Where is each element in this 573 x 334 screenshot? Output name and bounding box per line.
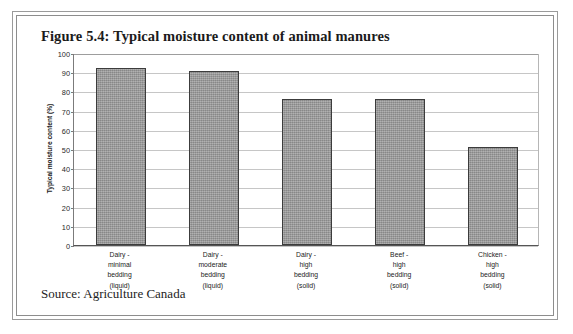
x-axis-label-line: bedding	[168, 270, 257, 280]
bars-layer	[74, 54, 538, 245]
bar-chart: Typical moisture content (%) 10090807060…	[25, 49, 549, 304]
plot-area: 1009080706050403020100	[73, 54, 539, 246]
bar-slot	[468, 54, 518, 245]
bar[interactable]	[468, 147, 518, 245]
bar-slot	[282, 54, 332, 245]
y-tick-label: 50	[62, 146, 70, 155]
x-axis-label-line: Beef -	[355, 250, 444, 260]
gridline	[74, 246, 538, 247]
y-tick-label: 40	[62, 165, 70, 174]
x-axis-label-line: moderate	[168, 260, 257, 270]
x-axis-label-line: (solid)	[261, 281, 350, 291]
y-tick-label: 70	[62, 107, 70, 116]
x-axis-label-line: (solid)	[355, 281, 444, 291]
x-axis-label: Chicken -highbedding(solid)	[448, 250, 537, 291]
x-axis-label-line: bedding	[448, 270, 537, 280]
y-tick-label: 10	[62, 222, 70, 231]
bar[interactable]	[282, 99, 332, 245]
figure-border-inner: Figure 5.4: Typical moisture content of …	[16, 15, 554, 316]
y-tick-label: 20	[62, 203, 70, 212]
figure-border-frame: Figure 5.4: Typical moisture content of …	[12, 11, 558, 320]
x-axis-label-line: Dairy -	[75, 250, 164, 260]
x-axis-label-line: Dairy -	[261, 250, 350, 260]
x-axis-label: Dairy -moderatebedding(liquid)	[168, 250, 257, 291]
bar[interactable]	[375, 99, 425, 245]
bar-slot	[96, 54, 146, 245]
bar-slot	[375, 54, 425, 245]
x-axis-label-line: bedding	[261, 270, 350, 280]
figure-source: Source: Agriculture Canada	[41, 286, 185, 302]
x-axis-label: Dairy -minimalbedding(liquid)	[75, 250, 164, 291]
x-axis-label: Dairy -highbedding(solid)	[261, 250, 350, 291]
y-tick-label: 100	[58, 50, 70, 59]
y-tick-label: 0	[66, 242, 70, 251]
x-axis-label-line: Dairy -	[168, 250, 257, 260]
x-axis-label-line: high	[261, 260, 350, 270]
x-axis-label-line: high	[355, 260, 444, 270]
x-axis-label-line: (solid)	[448, 281, 537, 291]
bar-slot	[189, 54, 239, 245]
bar[interactable]	[189, 71, 239, 245]
y-tick-label: 80	[62, 88, 70, 97]
bar[interactable]	[96, 68, 146, 245]
x-axis-label-line: bedding	[355, 270, 444, 280]
x-axis-label-line: minimal	[75, 260, 164, 270]
y-tick-mark	[71, 246, 74, 247]
y-tick-label: 30	[62, 184, 70, 193]
y-tick-label: 60	[62, 126, 70, 135]
x-axis-label-line: bedding	[75, 270, 164, 280]
x-axis-label: Beef -highbedding(solid)	[355, 250, 444, 291]
y-axis-title: Typical moisture content (%)	[46, 79, 53, 219]
x-axis-label-line: Chicken -	[448, 250, 537, 260]
x-axis-label-line: high	[448, 260, 537, 270]
y-tick-label: 90	[62, 69, 70, 78]
figure-title: Figure 5.4: Typical moisture content of …	[41, 28, 390, 45]
